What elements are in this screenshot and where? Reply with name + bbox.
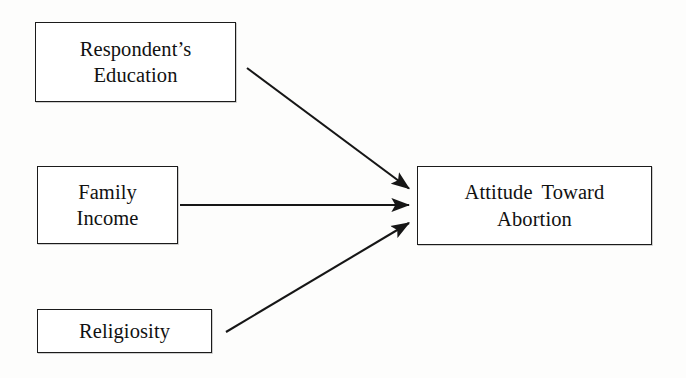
- edge-education-to-outcome: [247, 68, 409, 189]
- node-attitude-toward-abortion: Attitude Toward Abortion: [417, 166, 652, 245]
- causal-path-diagram: Respondent’s Education Family Income Rel…: [0, 0, 686, 378]
- node-label-outcome: Attitude Toward Abortion: [465, 179, 605, 231]
- node-label-income: Family Income: [76, 179, 138, 231]
- edge-religiosity-to-outcome: [226, 223, 409, 332]
- node-label-religiosity: Religiosity: [79, 318, 170, 344]
- node-religiosity: Religiosity: [37, 309, 212, 353]
- node-label-education: Respondent’s Education: [80, 36, 192, 88]
- node-family-income: Family Income: [37, 166, 178, 244]
- node-respondents-education: Respondent’s Education: [35, 22, 236, 102]
